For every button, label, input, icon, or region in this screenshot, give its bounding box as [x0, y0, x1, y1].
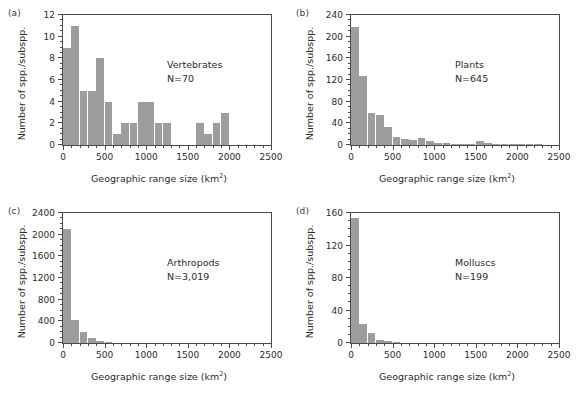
y-axis-tick-label: 200 [326, 32, 343, 42]
y-axis-minor-tick [348, 133, 351, 134]
y-axis-minor-tick [60, 133, 63, 134]
x-axis-minor-tick [130, 145, 131, 148]
y-axis-tick [346, 36, 351, 37]
x-axis-tick [559, 343, 560, 348]
x-axis-tick [105, 343, 106, 348]
bar [492, 144, 500, 145]
x-axis-minor-tick [254, 343, 255, 346]
y-axis-tick-label: 2000 [32, 230, 55, 240]
x-axis-tick-label: 2000 [506, 350, 529, 360]
x-axis-minor-tick [254, 145, 255, 148]
y-axis-minor-tick [60, 47, 63, 48]
panel-sample-size: N=199 [455, 270, 495, 284]
x-axis-minor-tick [368, 343, 369, 346]
y-axis-tick-label: 0 [49, 140, 55, 150]
y-axis-minor-tick [348, 52, 351, 53]
y-axis-minor-tick [348, 334, 351, 335]
y-axis-minor-tick [60, 315, 63, 316]
x-axis-title-c: Geographic range size (km2) [48, 370, 270, 382]
y-axis-tick [58, 212, 63, 213]
bar [517, 144, 525, 145]
bar [63, 48, 71, 146]
bar [384, 127, 392, 145]
y-axis-minor-tick [348, 106, 351, 107]
y-axis-tick-label: 160 [326, 208, 343, 218]
x-axis-minor-tick [96, 343, 97, 346]
x-axis-tick [188, 343, 189, 348]
y-axis-tick-label: 8 [49, 53, 55, 63]
x-axis-tick-label: 0 [348, 350, 354, 360]
x-axis-minor-tick [551, 343, 552, 346]
y-axis-tick [346, 212, 351, 213]
x-axis-minor-tick [359, 343, 360, 346]
y-axis-tick-label: 80 [332, 273, 343, 283]
y-axis-tick [346, 122, 351, 123]
y-axis-minor-tick [60, 310, 63, 311]
x-axis-tick-label: 2500 [548, 152, 571, 162]
y-axis-minor-tick [60, 331, 63, 332]
panel-sample-size: N=645 [455, 72, 488, 86]
y-axis-tick [58, 36, 63, 37]
y-axis-minor-tick [60, 95, 63, 96]
x-axis-minor-tick [179, 145, 180, 148]
y-axis-minor-tick [348, 285, 351, 286]
y-axis-tick [58, 101, 63, 102]
x-axis-tick [229, 343, 230, 348]
panel-b-plants: (b) Number of spp./subspp. 0408012016020… [288, 0, 576, 198]
bar [376, 115, 384, 145]
bar [384, 341, 392, 343]
x-axis-tick-label: 1500 [176, 152, 199, 162]
x-axis-tick [517, 343, 518, 348]
bar [96, 58, 104, 145]
x-axis-tick [434, 343, 435, 348]
x-axis-tick [517, 145, 518, 150]
y-axis-tick [346, 101, 351, 102]
y-axis-minor-tick [60, 139, 63, 140]
x-axis-minor-tick [96, 145, 97, 148]
x-axis-tick-label: 2000 [218, 152, 241, 162]
x-axis-minor-tick [542, 145, 543, 148]
y-axis-tick [58, 122, 63, 123]
x-axis-minor-tick [138, 145, 139, 148]
x-axis-tick [559, 145, 560, 150]
x-axis-minor-tick [534, 145, 535, 148]
x-axis-minor-tick [263, 343, 264, 346]
x-axis-minor-tick [171, 343, 172, 346]
y-axis-minor-tick [348, 301, 351, 302]
panel-a-vertebrates: (a) Number of spp./subspp. 0246810120500… [0, 0, 288, 198]
y-axis-minor-tick [348, 220, 351, 221]
y-axis-minor-tick [60, 272, 63, 273]
x-axis-tick [146, 343, 147, 348]
x-axis-minor-tick [196, 343, 197, 346]
x-axis-tick [188, 145, 189, 150]
bar [80, 91, 88, 145]
y-axis-minor-tick [60, 282, 63, 283]
x-axis-tick-label: 500 [96, 152, 113, 162]
bar [434, 143, 442, 145]
x-axis-minor-tick [113, 343, 114, 346]
bar [221, 113, 229, 146]
bar [88, 91, 96, 145]
x-axis-minor-tick [88, 145, 89, 148]
x-axis-minor-tick [542, 343, 543, 346]
panel-series-name: Plants [455, 59, 484, 70]
x-axis-tick-label: 0 [60, 152, 66, 162]
panel-sample-size: N=70 [167, 72, 222, 86]
x-axis-tick [146, 145, 147, 150]
x-axis-minor-tick [418, 145, 419, 148]
y-axis-tick-label: 6 [49, 75, 55, 85]
y-axis-minor-tick [60, 112, 63, 113]
bar [105, 342, 113, 343]
x-axis-minor-tick [409, 343, 410, 346]
bar [163, 123, 171, 145]
x-axis-minor-tick [113, 145, 114, 148]
x-axis-minor-tick [526, 145, 527, 148]
y-axis-tick [346, 245, 351, 246]
x-axis-tick [229, 145, 230, 150]
y-axis-title-c: Number of spp./subspp. [16, 214, 27, 350]
y-axis-tick-label: 0 [337, 140, 343, 150]
y-axis-tick-label: 1200 [32, 273, 55, 283]
x-axis-minor-tick [526, 343, 527, 346]
x-axis-minor-tick [163, 145, 164, 148]
y-axis-minor-tick [348, 236, 351, 237]
